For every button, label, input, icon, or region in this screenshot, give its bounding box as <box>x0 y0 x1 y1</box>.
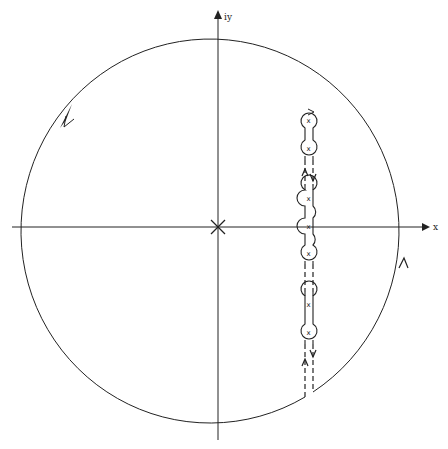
singularity-markers: x x x x x x x <box>307 117 311 337</box>
singularity-2: x <box>307 145 311 153</box>
singularity-4: x <box>307 223 311 231</box>
singularity-5: x <box>307 250 311 258</box>
circle-contour <box>21 39 399 423</box>
x-axis-label: x <box>433 222 438 232</box>
y-axis-label: iy <box>224 12 233 22</box>
singularity-6: x <box>307 301 311 309</box>
singularity-3: x <box>307 195 311 203</box>
singularity-7: x <box>307 329 311 337</box>
singularity-1: x <box>307 117 311 125</box>
contour-arrow-upper-left-wings <box>64 116 74 127</box>
contour-arrow-right <box>399 258 408 268</box>
contour-diagram: x iy <box>0 0 448 449</box>
